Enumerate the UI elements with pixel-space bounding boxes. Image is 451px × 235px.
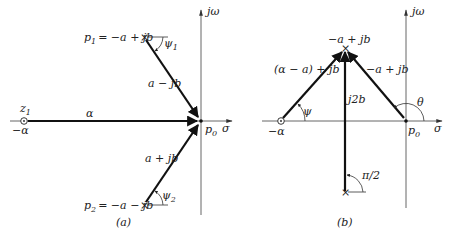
pole-bottom-marker: × <box>341 186 350 199</box>
angle-arc-psi1 <box>155 37 163 51</box>
pole-zero-diagram: jω σ × × p1= −a + jb p2= −a − jb p0 z1 −… <box>0 0 451 235</box>
panel-b: jω σ × × −a + jb −α p0 (α − a) + jb −a +… <box>262 5 442 229</box>
point-p0-b <box>404 119 408 123</box>
sigma-label-a: σ <box>222 122 230 135</box>
zero-z1-dot <box>23 120 25 122</box>
label-p2: p2= −a − jb <box>84 199 153 214</box>
label-z1: z1 <box>19 102 31 117</box>
panel-a: jω σ × × p1= −a + jb p2= −a − jb p0 z1 −… <box>10 5 232 229</box>
zero-dot-b <box>280 120 282 122</box>
label-vector-a-minus-jb: a − jb <box>148 77 181 90</box>
jw-label-a: jω <box>204 5 219 18</box>
label-minus-alpha-a: −α <box>12 124 29 137</box>
label-vector-minus-a-plus-jb: −a + jb <box>366 63 408 76</box>
label-psi: ψ <box>303 105 312 118</box>
label-vector-alpha-minus-a-plus-jb: (α − a) + jb <box>274 63 339 76</box>
label-vector-a-plus-jb: a + jb <box>145 152 178 165</box>
jw-label-b: jω <box>409 5 424 18</box>
label-p1: p1= −a + jb <box>84 31 153 46</box>
label-top-pole: −a + jb <box>328 33 370 46</box>
label-psi2: ψ2 <box>162 189 176 204</box>
label-psi1: ψ1 <box>164 37 178 52</box>
sigma-label-b: σ <box>434 122 442 135</box>
vector-alpha-minus-a-plus-jb <box>283 52 342 118</box>
point-p0-a <box>199 119 203 123</box>
label-p0-a: p0 <box>205 123 217 138</box>
label-theta: θ <box>417 96 424 109</box>
vector-minus-a-plus-jb <box>348 52 404 118</box>
label-p0-b: p0 <box>408 124 420 139</box>
label-right-angle: π/2 <box>361 169 380 182</box>
label-minus-alpha-b: −α <box>268 125 285 138</box>
caption-a: (a) <box>116 216 131 229</box>
caption-b: (b) <box>337 216 353 229</box>
label-vector-alpha: α <box>86 107 94 120</box>
label-vector-j2b: j2b <box>345 93 365 106</box>
